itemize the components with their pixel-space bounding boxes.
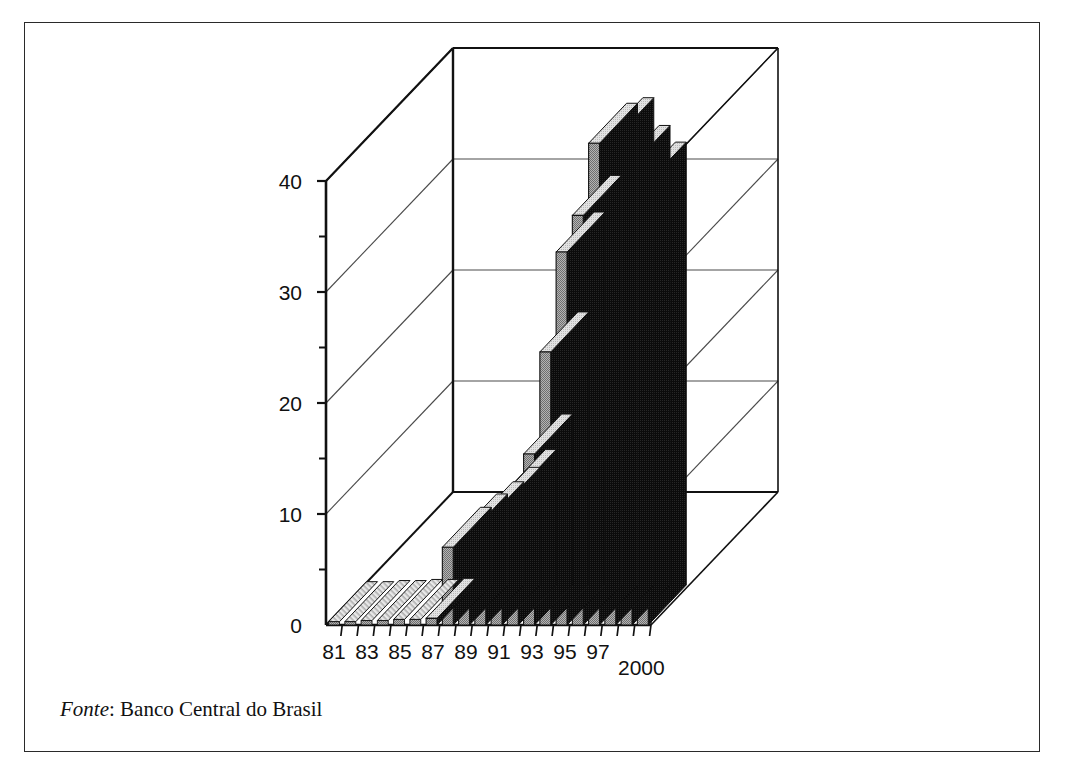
bar-84-front xyxy=(377,621,388,625)
x-tick-1 xyxy=(341,625,342,636)
x-tick-18 xyxy=(617,625,618,636)
figure-page: 40 30 20 10 0 81 83 85 87 89 91 93 95 97… xyxy=(0,0,1066,784)
y-tick-label-30: 30 xyxy=(248,281,302,305)
source-text: Banco Central do Brasil xyxy=(120,697,322,721)
x-tick-label-97: 97 xyxy=(578,640,618,664)
y-axis-top-depth-edge xyxy=(326,48,453,181)
x-tick-6 xyxy=(422,625,423,636)
source-label: Fonte xyxy=(60,697,109,721)
chart-geometry xyxy=(317,48,778,636)
x-tick-20 xyxy=(650,625,651,636)
x-tick-4 xyxy=(390,625,391,636)
bar-82-front xyxy=(345,622,356,625)
x-tick-9 xyxy=(471,625,472,636)
x-tick-19 xyxy=(633,625,634,636)
x-tick-17 xyxy=(601,625,602,636)
x-tick-14 xyxy=(552,625,553,636)
bar-81-front xyxy=(329,622,340,625)
x-tick-15 xyxy=(568,625,569,636)
bar-86-front xyxy=(410,619,421,625)
gridline-depth-10 xyxy=(326,381,453,514)
bar-chart-3d xyxy=(0,0,1066,784)
y-tick-label-0: 0 xyxy=(248,614,302,638)
source-note: Fonte: Banco Central do Brasil xyxy=(60,697,322,722)
bar-85-front xyxy=(394,619,405,625)
y-tick-label-10: 10 xyxy=(248,503,302,527)
source-separator: : xyxy=(109,697,120,721)
bar-87-front xyxy=(426,618,437,625)
gridline-depth-20 xyxy=(326,270,453,403)
x-tick-13 xyxy=(536,625,537,636)
x-axis-end-label-2000: 2000 xyxy=(618,656,665,680)
x-tick-16 xyxy=(585,625,586,636)
x-tick-5 xyxy=(406,625,407,636)
y-tick-label-20: 20 xyxy=(248,392,302,416)
x-tick-7 xyxy=(438,625,439,636)
x-tick-11 xyxy=(503,625,504,636)
x-tick-12 xyxy=(520,625,521,636)
x-tick-10 xyxy=(487,625,488,636)
y-tick-label-40: 40 xyxy=(248,170,302,194)
x-tick-2 xyxy=(357,625,358,636)
x-tick-8 xyxy=(455,625,456,636)
x-tick-3 xyxy=(373,625,374,636)
bar-83-front xyxy=(361,621,372,625)
gridline-depth-30 xyxy=(326,159,453,292)
